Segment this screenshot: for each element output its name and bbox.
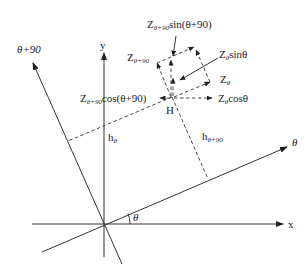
theta-axis-label: θ (292, 136, 298, 148)
point-h-label: H (166, 104, 174, 116)
theta-axis (42, 147, 287, 252)
angle-label: θ (133, 211, 139, 223)
y-axis-label: y (100, 39, 106, 51)
theta-plus-90-axis-label: θ+90 (17, 43, 41, 55)
h-theta-plus-90-label: hθ+90 (202, 130, 223, 144)
pointer-sin-theta-90 (173, 36, 176, 56)
x-axis-label: x (288, 218, 294, 230)
z-theta-90-label: Zθ+90 (127, 51, 149, 65)
parallelogram-edge-top (157, 47, 194, 63)
angle-arc (128, 214, 130, 225)
z-theta-label: Zθ (220, 73, 231, 87)
z-theta-sin-label: Zθsinθ (219, 48, 247, 62)
z-theta-cos-label: Zθcosθ (218, 92, 248, 106)
z-theta-90-sin-label: Zθ+90sin(θ+90) (147, 18, 212, 32)
pointer-sin-theta (180, 58, 218, 80)
z-theta-90-cos-label: Zθ+90cos(θ+90) (80, 92, 147, 106)
z-theta-vector (174, 82, 210, 97)
vector-decomposition-diagram: x y θ θ+90 θ hθ hθ+90 H Zθ+90sin(θ+90) Z… (0, 0, 308, 275)
z-theta-90-vector (157, 63, 171, 97)
h-theta-label: hθ (108, 131, 118, 145)
parallelogram-edge-right (196, 50, 210, 82)
